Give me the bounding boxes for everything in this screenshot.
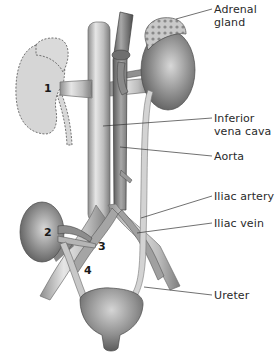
label-aorta: Aorta	[214, 150, 244, 163]
label-adrenal-gland: Adrenal gland	[214, 3, 257, 29]
inferior-vena-cava	[60, 22, 150, 222]
label-inferior-vena-cava: Inferior vena cava	[214, 112, 271, 138]
marker-2: 2	[44, 226, 52, 239]
label-iliac-artery: Iliac artery	[214, 190, 274, 203]
label-ureter: Ureter	[214, 289, 249, 302]
marker-3: 3	[98, 240, 106, 253]
marker-1: 1	[44, 82, 52, 95]
bladder	[80, 288, 143, 351]
label-iliac-vein: Iliac vein	[214, 217, 264, 230]
marker-4: 4	[84, 264, 92, 277]
urinary-system-diagram: Adrenal gland Inferior vena cava Aorta I…	[0, 0, 277, 355]
